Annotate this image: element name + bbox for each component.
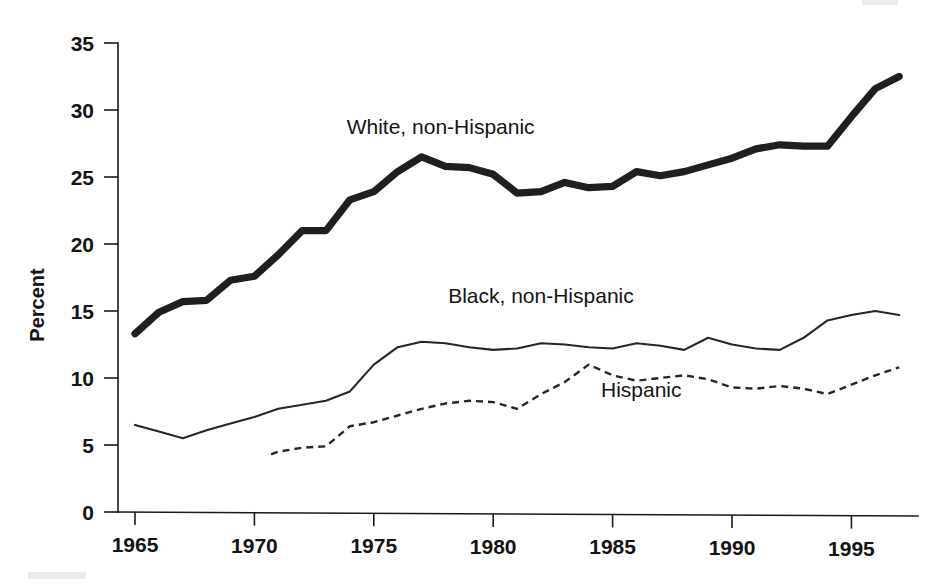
y-tick-labels: 05101520253035 bbox=[71, 32, 95, 524]
series-line-hispanic bbox=[271, 365, 899, 455]
series-annotations: White, non-Hispanic Black, non-Hispanic … bbox=[347, 115, 682, 401]
series-line-black-non-hispanic bbox=[135, 311, 899, 438]
y-tick-label-35: 35 bbox=[71, 32, 95, 55]
x-tick-label-1970: 1970 bbox=[231, 534, 278, 557]
y-axis-title: Percent bbox=[26, 268, 48, 342]
x-tick-label-1975: 1975 bbox=[350, 534, 397, 557]
x-tick-label-1980: 1980 bbox=[470, 535, 517, 558]
x-tick-label-1965: 1965 bbox=[112, 533, 159, 556]
chart-page: 05101520253035 1965197019751980198519901… bbox=[0, 0, 929, 584]
y-tick-label-0: 0 bbox=[82, 501, 94, 524]
x-tick-label-1985: 1985 bbox=[589, 535, 636, 558]
x-tick-label-1995: 1995 bbox=[828, 537, 875, 560]
y-tick-label-10: 10 bbox=[71, 367, 94, 390]
series-label-hispanic: Hispanic bbox=[601, 378, 682, 401]
y-tick-marks bbox=[104, 43, 118, 512]
x-tick-label-1990: 1990 bbox=[709, 536, 756, 559]
x-axis-group: 1965197019751980198519901995 bbox=[112, 512, 918, 560]
y-tick-label-30: 30 bbox=[71, 99, 94, 122]
percent-by-race-line-chart: 05101520253035 1965197019751980198519901… bbox=[0, 0, 929, 584]
y-axis-group: 05101520253035 bbox=[71, 32, 118, 524]
x-axis-line bbox=[118, 512, 918, 516]
y-tick-label-5: 5 bbox=[82, 434, 94, 457]
x-tick-labels: 1965197019751980198519901995 bbox=[112, 533, 875, 560]
series-label-white-non-hispanic: White, non-Hispanic bbox=[347, 115, 535, 138]
y-tick-label-20: 20 bbox=[71, 233, 94, 256]
y-tick-label-25: 25 bbox=[71, 166, 95, 189]
y-tick-label-15: 15 bbox=[71, 300, 95, 323]
series-label-black-non-hispanic: Black, non-Hispanic bbox=[448, 284, 634, 307]
